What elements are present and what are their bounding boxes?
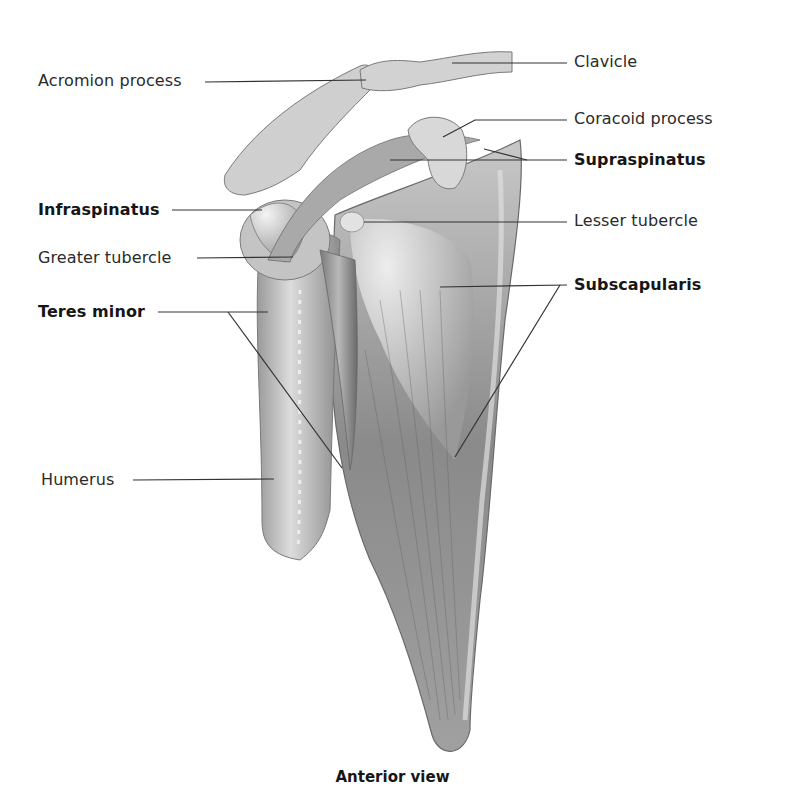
label-subscapularis: Subscapularis xyxy=(574,275,702,294)
label-clavicle: Clavicle xyxy=(574,52,637,71)
label-humerus: Humerus xyxy=(41,470,114,489)
scapula xyxy=(330,140,521,751)
label-greater-tubercle: Greater tubercle xyxy=(38,248,171,267)
label-teres-minor: Teres minor xyxy=(38,302,145,321)
label-lesser-tubercle: Lesser tubercle xyxy=(574,211,698,230)
clavicle-bone xyxy=(360,52,512,91)
label-infraspinatus: Infraspinatus xyxy=(38,200,160,219)
label-acromion-process: Acromion process xyxy=(38,71,182,90)
lesser-tubercle xyxy=(340,212,364,232)
label-supraspinatus: Supraspinatus xyxy=(574,150,706,169)
figure-caption: Anterior view xyxy=(0,768,785,786)
label-coracoid-process: Coracoid process xyxy=(574,109,713,128)
rotator-cuff-diagram: Acromion process Clavicle Coracoid proce… xyxy=(0,0,785,795)
